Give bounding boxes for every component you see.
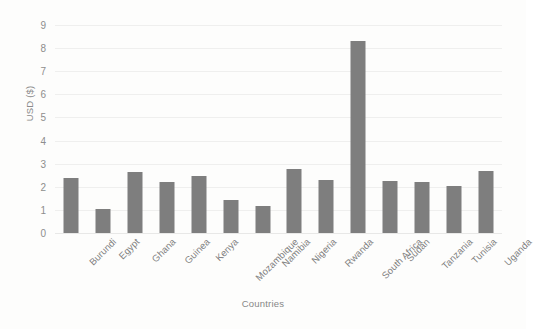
bar-slot bbox=[342, 25, 374, 233]
y-axis-tick-label: 3 bbox=[40, 158, 46, 169]
bar[interactable] bbox=[447, 186, 462, 233]
x-axis-tick-label: Tanzania bbox=[440, 236, 475, 271]
x-axis-tick-label: Tunisia bbox=[469, 236, 499, 266]
bar[interactable] bbox=[95, 209, 110, 233]
bar[interactable] bbox=[383, 181, 398, 233]
plot-area: 0123456789 bbox=[55, 25, 502, 233]
x-axis-tick-label: Rwanda bbox=[343, 236, 376, 269]
y-axis-tick-label: 9 bbox=[40, 20, 46, 31]
bar[interactable] bbox=[255, 206, 270, 233]
bar-slot bbox=[470, 25, 502, 233]
bar[interactable] bbox=[223, 200, 238, 234]
x-axis-tick-label: Uganda bbox=[502, 236, 534, 268]
y-axis-tick-label: 4 bbox=[40, 135, 46, 146]
y-axis-title: USD ($) bbox=[24, 59, 35, 149]
bar[interactable] bbox=[351, 41, 366, 233]
bar[interactable] bbox=[159, 182, 174, 233]
x-axis-tick-label: Guinea bbox=[182, 236, 212, 266]
y-axis-tick-label: 5 bbox=[40, 112, 46, 123]
bar-slot bbox=[215, 25, 247, 233]
x-axis-tick-label: Kenya bbox=[213, 236, 240, 263]
bar[interactable] bbox=[287, 169, 302, 233]
bar-slot bbox=[374, 25, 406, 233]
bar[interactable] bbox=[415, 182, 430, 233]
bar[interactable] bbox=[191, 176, 206, 233]
bar-slot bbox=[119, 25, 151, 233]
bar-slot bbox=[183, 25, 215, 233]
x-axis-title: Countries bbox=[0, 298, 526, 309]
y-axis-tick-label: 8 bbox=[40, 43, 46, 54]
bar-slot bbox=[310, 25, 342, 233]
bar[interactable] bbox=[319, 180, 334, 233]
bar-slot bbox=[279, 25, 311, 233]
bar-slot bbox=[55, 25, 87, 233]
gridline: 0 bbox=[55, 233, 502, 234]
x-axis-tick-label: Sudan bbox=[404, 236, 432, 264]
y-axis-tick-label: 0 bbox=[40, 228, 46, 239]
bar-slot bbox=[406, 25, 438, 233]
bar[interactable] bbox=[479, 171, 494, 233]
bar-slot bbox=[438, 25, 470, 233]
x-axis-tick-label: Egypt bbox=[116, 236, 141, 261]
x-axis-tick-label: Nigeria bbox=[309, 236, 339, 266]
bars-layer bbox=[55, 25, 502, 233]
y-axis-tick-label: 7 bbox=[40, 66, 46, 77]
bar-slot bbox=[87, 25, 119, 233]
x-axis-tick-label: Ghana bbox=[149, 236, 177, 264]
y-axis-tick-label: 1 bbox=[40, 204, 46, 215]
y-axis-tick-label: 6 bbox=[40, 89, 46, 100]
bar[interactable] bbox=[63, 178, 78, 233]
x-axis-tick-labels: BurundiEgyptGhanaGuineaKenyaMozambiqueNa… bbox=[55, 236, 502, 306]
bar-slot bbox=[247, 25, 279, 233]
bar[interactable] bbox=[127, 172, 142, 233]
bar-slot bbox=[151, 25, 183, 233]
y-axis-tick-label: 2 bbox=[40, 181, 46, 192]
x-axis-tick-label: Burundi bbox=[87, 236, 118, 267]
